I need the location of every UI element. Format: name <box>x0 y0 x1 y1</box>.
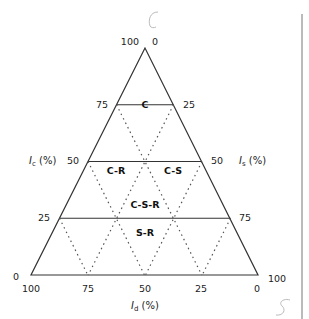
right-tick-75: 75 <box>239 212 251 223</box>
bottom-tick-75: 75 <box>82 283 94 294</box>
region-c: C <box>142 99 149 110</box>
bottom-tick-50: 50 <box>139 283 151 294</box>
left-tick-75: 75 <box>96 99 108 110</box>
bottom-tick-25: 25 <box>195 283 207 294</box>
left-axis-title: Ic (%) <box>29 155 56 168</box>
left-tick-100: 100 <box>121 36 139 47</box>
right-tick-25: 25 <box>183 99 195 110</box>
ternary-diagram: C C-R C-S C-S-R S-R 100 75 50 25 0 0 25 … <box>0 0 309 319</box>
region-c-r: C-R <box>107 165 126 176</box>
region-s-r: S-R <box>136 227 155 238</box>
left-tick-50: 50 <box>67 155 79 166</box>
right-tick-50: 50 <box>211 155 223 166</box>
handwritten-c-mark <box>149 12 158 28</box>
right-axis-title: Is (%) <box>239 155 266 168</box>
bottom-axis-title: Id (%) <box>131 300 159 313</box>
right-tick-0: 0 <box>152 36 158 47</box>
region-c-s: C-S <box>164 165 182 176</box>
left-tick-0: 0 <box>13 271 19 282</box>
bottom-tick-0: 0 <box>254 283 260 294</box>
handwritten-s-mark <box>276 299 290 315</box>
region-c-s-r: C-S-R <box>130 199 160 210</box>
bottom-tick-100: 100 <box>22 283 40 294</box>
dotted-grid <box>60 105 231 275</box>
left-tick-25: 25 <box>38 212 50 223</box>
right-tick-100: 100 <box>268 273 286 284</box>
